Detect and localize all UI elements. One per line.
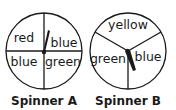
spinner-b: yellow green blue Spinner B (90, 13, 166, 108)
spinner-b-divider-left (95, 32, 128, 51)
spinner-a: red blue blue green Spinner A (6, 13, 82, 108)
spinner-a-pivot-icon (42, 50, 46, 54)
spinner-b-pivot-icon (125, 49, 129, 53)
spinner-a-section-label: blue (50, 35, 77, 50)
spinner-b-caption: Spinner B (95, 94, 161, 108)
spinner-b-section-label: green (90, 51, 126, 66)
spinner-a-section-label: green (45, 54, 81, 69)
spinner-a-section-label: red (14, 30, 35, 45)
spinners-diagram: red blue blue green Spinner A yellow gre… (0, 0, 176, 110)
spinner-b-section-label: blue (134, 49, 161, 64)
spinner-b-section-label: yellow (108, 17, 148, 32)
spinner-a-caption: Spinner A (11, 94, 78, 108)
spinner-a-section-label: blue (10, 54, 37, 69)
